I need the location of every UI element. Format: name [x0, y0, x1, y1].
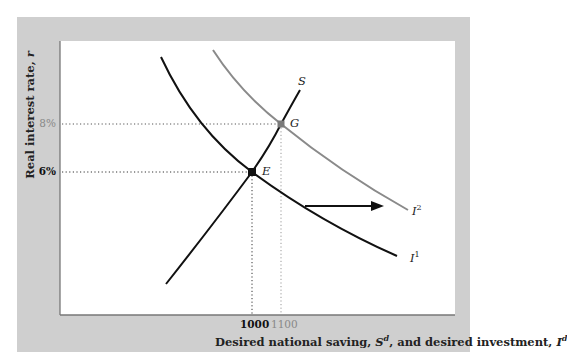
label-i1-sup: 1	[415, 250, 420, 259]
y-tick-6pct: 6%	[16, 165, 56, 177]
label-e: E	[262, 164, 270, 178]
x-tick-1100: 1100	[271, 318, 298, 330]
x-label-i-sup: d	[562, 333, 567, 343]
point-g-marker	[278, 121, 285, 128]
y-axis-label-var: r	[23, 51, 37, 57]
label-s: S	[298, 74, 306, 88]
point-e-marker	[248, 168, 256, 176]
x-label-mid: , and desired investment,	[389, 335, 556, 349]
x-tick-1000: 1000	[240, 318, 269, 330]
x-label-s: S	[375, 335, 383, 349]
label-i2-sup: 2	[417, 203, 422, 212]
plot-area	[60, 41, 455, 315]
x-axis-label: Desired national saving, Sd, and desired…	[215, 333, 567, 349]
label-i1: I1	[410, 250, 420, 265]
label-g: G	[290, 116, 299, 130]
x-label-prefix: Desired national saving,	[215, 335, 375, 349]
y-tick-8pct: 8%	[16, 117, 56, 129]
label-i2: I2	[412, 203, 422, 218]
